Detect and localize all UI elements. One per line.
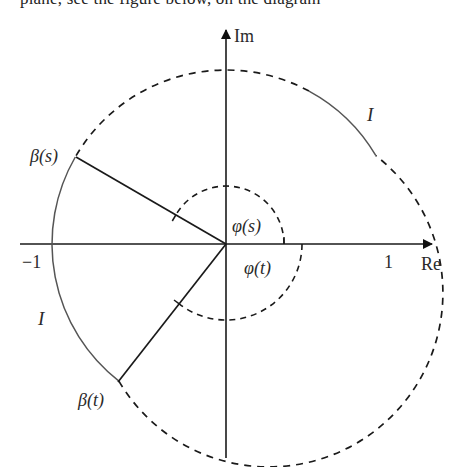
radius-beta-s bbox=[76, 157, 226, 244]
unit-circle-dashed-top bbox=[75, 70, 309, 157]
tick-label-one: 1 bbox=[384, 252, 393, 272]
phi-s-label: φ(s) bbox=[232, 216, 261, 237]
radius-beta-t bbox=[118, 244, 226, 382]
beta-t-label: β(t) bbox=[77, 390, 104, 411]
unit-circle-diagram: Im Re −1 1 β(s) β(t) φ(s) φ(t) I I bbox=[0, 0, 464, 467]
interval-arc-left bbox=[52, 157, 119, 381]
tick-label-minus-one: −1 bbox=[22, 252, 41, 272]
interval-label-left: I bbox=[37, 308, 46, 329]
phi-t-label: φ(t) bbox=[244, 258, 271, 279]
interval-label-right: I bbox=[366, 104, 375, 125]
angle-arc-phi-s bbox=[176, 186, 284, 244]
imaginary-axis-label: Im bbox=[234, 26, 254, 46]
phi-s-tick-start bbox=[172, 215, 176, 221]
interval-arc-right bbox=[309, 91, 376, 156]
phi-t-tick bbox=[174, 300, 179, 304]
real-axis-label: Re bbox=[421, 254, 441, 274]
unit-circle-dashed-bottom-right bbox=[119, 156, 443, 467]
beta-s-label: β(s) bbox=[29, 146, 58, 167]
angle-arc-phi-t bbox=[179, 244, 302, 320]
